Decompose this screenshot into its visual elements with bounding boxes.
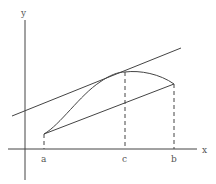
mvt-diagram: y x a c b bbox=[0, 0, 216, 184]
tangent-line bbox=[12, 48, 181, 116]
tick-label-b: b bbox=[171, 154, 177, 164]
tick-label-a: a bbox=[41, 154, 47, 164]
secant-line bbox=[44, 84, 174, 134]
tick-label-c: c bbox=[122, 154, 127, 164]
y-axis-label: y bbox=[20, 8, 27, 18]
x-axis-label: x bbox=[202, 145, 207, 155]
curve bbox=[44, 72, 174, 135]
